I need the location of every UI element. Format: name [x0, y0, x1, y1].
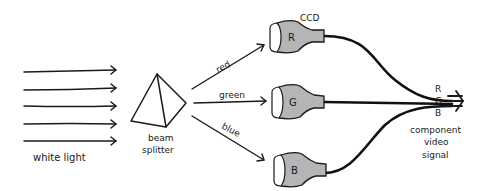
ccd-letter-r: R [288, 32, 295, 43]
output-arrow-icon [448, 91, 463, 111]
blue-beam-label: blue [220, 121, 242, 139]
white-light-arrows [24, 66, 116, 145]
output-channel-r: R [435, 84, 441, 94]
output-label-line2: video [424, 137, 449, 147]
ccd-sensor-r: R [270, 21, 324, 53]
light-arrow [24, 137, 116, 145]
output-channel-g: G [435, 96, 442, 106]
white-light-label: white light [33, 152, 86, 163]
three-ccd-diagram: white light beam splitter red green blue… [0, 0, 487, 191]
red-beam-label: red [214, 59, 232, 75]
ccd-letter-g: G [289, 97, 297, 108]
output-label-line1: component [410, 125, 461, 135]
beam-splitter-pyramid-icon [131, 74, 186, 127]
light-arrow [24, 66, 116, 74]
light-arrow [24, 120, 116, 128]
ccd-sensor-g: G [272, 85, 324, 119]
beam-splitter-label-line1: beam [148, 133, 174, 143]
output-channel-b: B [435, 108, 441, 118]
ccd-label: CCD [300, 13, 320, 23]
light-arrow [24, 102, 116, 110]
light-arrow [24, 84, 116, 92]
ccd-sensor-b: B [274, 153, 326, 187]
beam-splitter-label-line2: splitter [142, 145, 174, 155]
green-beam-label: green [219, 90, 245, 100]
ccd-letter-b: B [291, 165, 298, 176]
output-label-line3: signal [422, 150, 449, 160]
